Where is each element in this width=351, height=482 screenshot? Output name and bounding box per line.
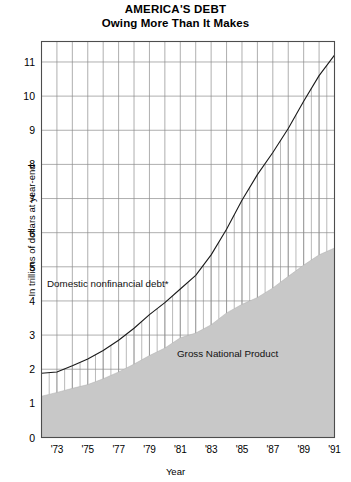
chart-figure: AMERICA'S DEBT Owing More Than It Makes … — [0, 0, 351, 482]
x-tick-label: '87 — [258, 444, 288, 455]
x-tick-label: '83 — [196, 444, 226, 455]
chart-subtitle: Owing More Than It Makes — [0, 16, 351, 30]
gnp-area-group — [42, 248, 335, 437]
y-tick-label: 11 — [9, 57, 35, 67]
x-tick-label: '85 — [227, 444, 257, 455]
x-tick-label: '81 — [165, 444, 195, 455]
chart-plot-area — [0, 0, 351, 482]
y-tick-label: 4 — [9, 296, 35, 306]
y-tick-label: 6 — [9, 228, 35, 238]
y-tick-label: 8 — [9, 159, 35, 169]
x-axis-label: Year — [0, 466, 351, 477]
y-tick-label: 1 — [9, 398, 35, 408]
y-tick-label: 9 — [9, 125, 35, 135]
x-tick-label: '75 — [73, 444, 103, 455]
y-tick-label: 0 — [9, 433, 35, 443]
x-tick-label: '77 — [104, 444, 134, 455]
x-tick-label: '73 — [42, 444, 72, 455]
y-tick-label: 7 — [9, 194, 35, 204]
page-title: AMERICA'S DEBT — [0, 2, 351, 16]
y-tick-label: 10 — [9, 91, 35, 101]
annotation-debt-series: Domestic nonfinancial debt* — [47, 278, 168, 289]
x-tick-label: '79 — [134, 444, 164, 455]
annotation-gnp-series: Gross National Product — [177, 348, 278, 359]
y-tick-label: 5 — [9, 262, 35, 272]
x-tick-label: '89 — [289, 444, 319, 455]
gnp-area — [42, 248, 335, 437]
x-tick-label: '91 — [320, 444, 350, 455]
y-tick-label: 2 — [9, 364, 35, 374]
y-tick-label: 3 — [9, 330, 35, 340]
y-axis-tick-labels: 01234567891011 — [5, 0, 35, 482]
chart-title-block: AMERICA'S DEBT Owing More Than It Makes — [0, 2, 351, 30]
